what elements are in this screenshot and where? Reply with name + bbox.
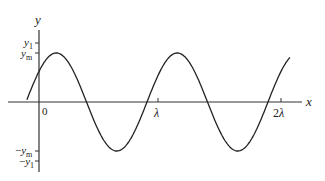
origin-label: 0 bbox=[42, 105, 48, 117]
wave-diagram: y x 0 λ 2λ y1 ym −ym −y1 bbox=[0, 0, 325, 181]
x-axis-label: x bbox=[305, 94, 312, 109]
x-tick-label-lambda: λ bbox=[153, 106, 159, 120]
x-tick-label-2lambda: 2λ bbox=[273, 106, 284, 120]
y-axis-label: y bbox=[33, 12, 41, 27]
